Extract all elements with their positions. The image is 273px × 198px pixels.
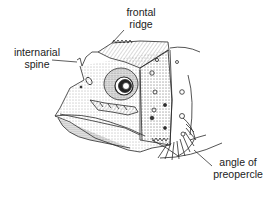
fish-head-outline [55,40,222,160]
label-angle-of-preopercle-line1: angle of [208,156,268,168]
label-frontal-ridge: frontal ridge [120,6,162,30]
label-angle-of-preopercle-line2: preopercle [208,168,268,180]
fish-head-diagram: frontal ridge internarial spine angle of… [0,0,273,198]
label-internarial-spine: internarial spine [8,46,66,70]
label-frontal-ridge-line2: ridge [120,18,162,30]
label-frontal-ridge-line1: frontal [120,6,162,18]
label-angle-of-preopercle: angle of preopercle [208,156,268,180]
label-internarial-spine-line2: spine [8,58,66,70]
label-internarial-spine-line1: internarial [8,46,66,58]
